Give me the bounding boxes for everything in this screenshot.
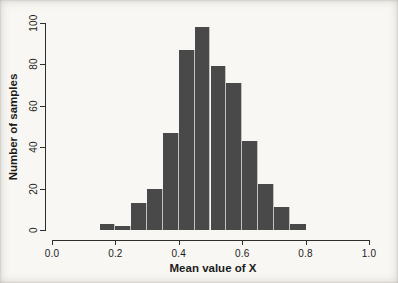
- y-axis-line: [45, 23, 46, 231]
- histogram-bar: [211, 66, 227, 230]
- y-axis-tick-label: 20: [28, 183, 39, 195]
- y-axis-title: Number of samples: [7, 74, 19, 181]
- x-axis-tick: [115, 240, 116, 245]
- x-axis-tick: [369, 240, 370, 245]
- x-axis-tick-label: 0.4: [172, 248, 187, 259]
- x-axis-tick: [52, 240, 53, 245]
- histogram-bar: [100, 224, 116, 230]
- y-axis-tick-label: 100: [28, 14, 39, 31]
- y-axis-tick-label: 80: [28, 59, 39, 71]
- plot-area: [52, 23, 369, 230]
- x-axis-tick-label: 0.6: [235, 248, 250, 259]
- histogram-bar: [242, 141, 258, 230]
- x-axis-title: Mean value of X: [170, 262, 257, 274]
- x-axis-tick-label: 0.2: [108, 248, 123, 259]
- x-axis-tick-label: 0.0: [45, 248, 60, 259]
- x-axis-tick: [242, 240, 243, 245]
- histogram-bar: [131, 203, 147, 230]
- histogram-bar: [163, 133, 179, 230]
- y-axis-tick: [40, 189, 45, 190]
- y-axis-tick-label: 0: [28, 227, 39, 233]
- y-axis-tick: [40, 106, 45, 107]
- y-axis-tick: [40, 23, 45, 24]
- y-axis-tick: [40, 64, 45, 65]
- y-axis-tick-label: 60: [28, 100, 39, 112]
- x-axis-tick: [179, 240, 180, 245]
- histogram-bar: [115, 226, 131, 230]
- x-axis-line: [52, 240, 370, 241]
- histogram-bar: [258, 184, 274, 230]
- x-axis-tick-label: 1.0: [362, 248, 377, 259]
- histogram-bar: [274, 207, 290, 230]
- x-axis-tick-label: 0.8: [298, 248, 313, 259]
- y-axis-tick: [40, 230, 45, 231]
- histogram-figure: 0204060801000.00.20.40.60.81.0 Number of…: [0, 0, 398, 283]
- y-axis-tick: [40, 147, 45, 148]
- histogram-bar: [179, 50, 195, 230]
- y-axis-tick-label: 40: [28, 141, 39, 153]
- histogram-bar: [290, 224, 306, 230]
- histogram-bar: [226, 83, 242, 230]
- histogram-bar: [147, 189, 163, 230]
- histogram-bar: [195, 27, 211, 230]
- x-axis-tick: [306, 240, 307, 245]
